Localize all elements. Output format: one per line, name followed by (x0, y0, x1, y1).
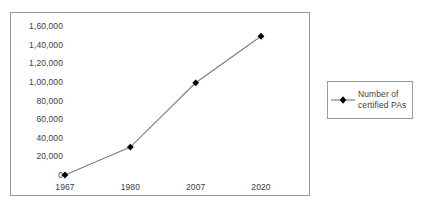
series-line-number-of-certified-pas (65, 36, 261, 175)
legend-item-number-of-certified-pas: Number of certified PAs (328, 82, 412, 118)
x-axis-tick-label: 2007 (186, 182, 205, 192)
line-chart-figure: 1,60,0001,40,0001,20,0001,00,00080,00060… (0, 0, 427, 207)
series-svg (11, 13, 311, 197)
series-markers (62, 33, 265, 179)
plot-canvas (11, 13, 311, 197)
plot-area-frame: 1,60,0001,40,0001,20,0001,00,00080,00060… (10, 12, 310, 196)
legend: Number of certified PAs (327, 81, 413, 119)
x-axis-tick-label: 1980 (121, 182, 140, 192)
x-axis: 1967198020072020 (11, 173, 311, 197)
legend-item-label: Number of certified PAs (358, 89, 412, 111)
x-axis-tick-label: 1967 (55, 182, 74, 192)
x-axis-tick-label: 2020 (251, 182, 270, 192)
legend-marker-icon (331, 93, 355, 107)
